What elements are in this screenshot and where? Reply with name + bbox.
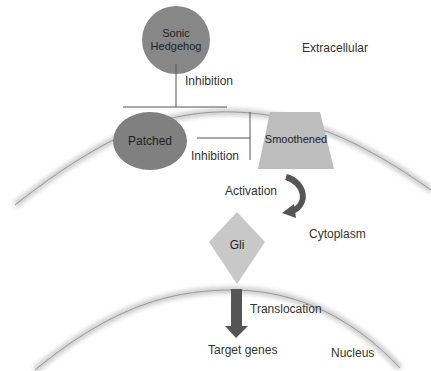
target-genes-label: Target genes <box>208 343 277 357</box>
translocation-label: Translocation <box>250 302 322 316</box>
translocation-arrow <box>225 289 248 338</box>
diagram-canvas <box>0 0 431 371</box>
extracellular-label: Extracellular <box>302 41 368 55</box>
inhibition-label-1: Inhibition <box>185 74 233 88</box>
cytoplasm-label: Cytoplasm <box>309 227 366 241</box>
patched-label: Patched <box>113 132 187 150</box>
nucleus-label: Nucleus <box>331 346 374 360</box>
shh-label-line1: Sonic <box>162 27 190 40</box>
activation-label: Activation <box>225 184 277 198</box>
shh-label-line2: Hedgehog <box>151 40 202 53</box>
gli-label: Gli <box>215 238 259 252</box>
sonic-hedgehog-label: Sonic Hedgehog <box>142 22 210 58</box>
inhibition-label-2: Inhibition <box>191 149 239 163</box>
activation-arrow <box>282 177 303 218</box>
smoothened-label: Smoothened <box>258 130 334 148</box>
